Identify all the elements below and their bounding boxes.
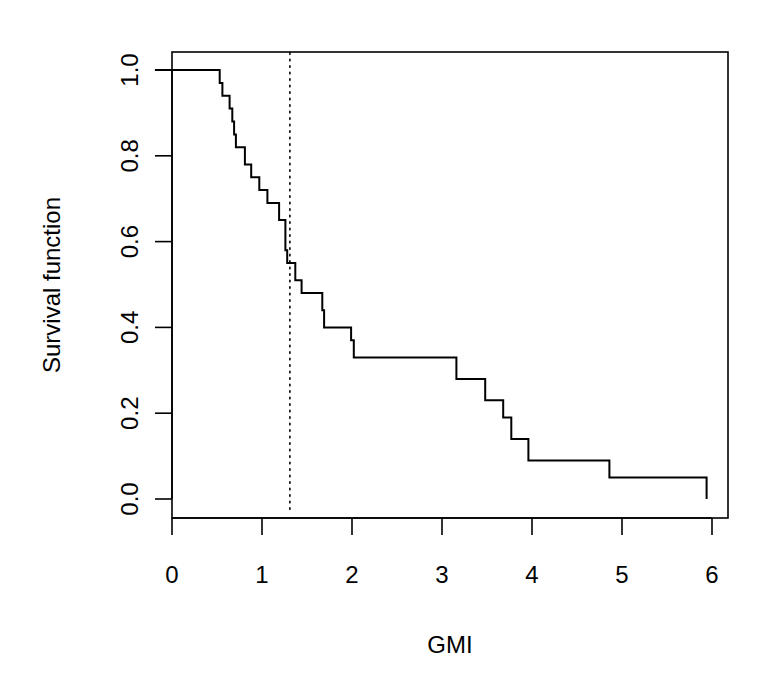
x-tick-label: 0 <box>165 561 178 588</box>
x-axis: 0123456 <box>165 518 718 588</box>
y-axis-label: Survival function <box>38 197 65 373</box>
y-tick-label: 0.4 <box>116 311 143 344</box>
y-tick-label: 0.0 <box>116 482 143 515</box>
y-tick-label: 1.0 <box>116 53 143 86</box>
x-tick-label: 2 <box>345 561 358 588</box>
y-tick-label: 0.8 <box>116 139 143 172</box>
plot-frame <box>172 52 728 518</box>
x-tick-label: 4 <box>525 561 538 588</box>
x-axis-label: GMI <box>427 631 472 658</box>
y-tick-label: 0.6 <box>116 225 143 258</box>
x-tick-label: 1 <box>255 561 268 588</box>
x-tick-label: 3 <box>435 561 448 588</box>
x-tick-label: 5 <box>615 561 628 588</box>
y-tick-label: 0.2 <box>116 397 143 430</box>
x-tick-label: 6 <box>705 561 718 588</box>
survival-curve <box>155 70 707 499</box>
y-axis: 0.00.20.40.60.81.0 <box>116 53 172 515</box>
survival-chart: 0.00.20.40.60.81.0 0123456 GMI Survival … <box>0 0 769 685</box>
